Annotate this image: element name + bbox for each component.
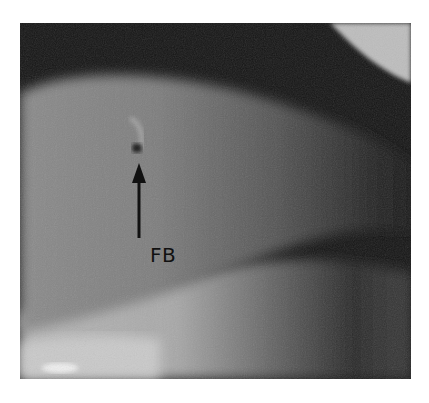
arrow-up-icon [20,23,411,379]
fb-label: FB [150,243,176,267]
clinical-photo: FB [20,23,411,379]
